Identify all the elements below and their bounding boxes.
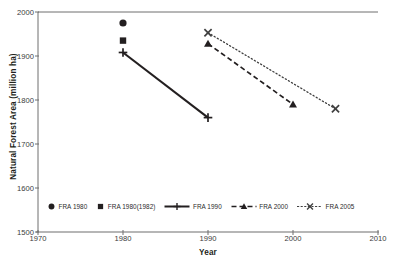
x-axis-title: Year xyxy=(38,248,378,257)
series-3 xyxy=(119,48,213,122)
plot-area xyxy=(0,0,412,268)
legend-item-fra-2005[interactable]: FRA 2005 xyxy=(297,202,354,211)
legend-item-label: FRA 1980(1982) xyxy=(108,203,156,210)
legend-item-label: FRA 2000 xyxy=(259,203,288,210)
series-2 xyxy=(120,37,126,43)
solid-line-plus-marker xyxy=(164,202,190,211)
series-1 xyxy=(119,19,126,26)
chart-legend: FRA 1980FRA 1980(1982)FRA 1990FRA 2000FR… xyxy=(47,202,354,211)
series-4 xyxy=(204,40,297,108)
data-marker-circle xyxy=(49,204,55,210)
x-axis-tick-label: 1990 xyxy=(188,234,228,243)
dashed-line-triangle-marker xyxy=(231,202,257,211)
legend-item-fra-1990[interactable]: FRA 1990 xyxy=(164,202,221,211)
legend-item-label: FRA 2005 xyxy=(326,203,355,210)
series-5 xyxy=(204,29,339,112)
data-marker-square xyxy=(98,204,103,209)
data-marker-triangle xyxy=(204,40,212,47)
legend-item-fra-1980[interactable]: FRA 1980 xyxy=(47,202,87,211)
data-marker-square xyxy=(120,37,126,43)
series-line xyxy=(208,33,336,109)
dotted-line-x-marker xyxy=(297,202,323,211)
filled-square-marker xyxy=(96,202,105,211)
series-line xyxy=(208,44,293,105)
data-marker-circle xyxy=(119,19,126,26)
legend-item-label: FRA 1980 xyxy=(59,203,88,210)
filled-circle-marker xyxy=(47,202,56,211)
x-axis-tick-label: 2010 xyxy=(358,234,398,243)
x-axis-tick-label: 1970 xyxy=(18,234,58,243)
chart-figure: Natural Forest Area (million ha) 2000190… xyxy=(0,0,412,268)
legend-item-fra-1980-1982[interactable]: FRA 1980(1982) xyxy=(96,202,155,211)
legend-item-label: FRA 1990 xyxy=(193,203,222,210)
legend-item-fra-2000[interactable]: FRA 2000 xyxy=(231,202,288,211)
series-line xyxy=(123,52,208,117)
x-axis-tick-label: 2000 xyxy=(273,234,313,243)
x-axis-tick-label: 1980 xyxy=(103,234,143,243)
